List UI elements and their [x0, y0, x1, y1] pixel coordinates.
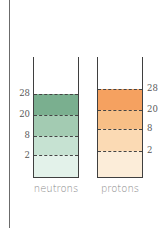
- frame-divider-line: [9, 0, 10, 228]
- neutron-band-8-2: [34, 136, 78, 155]
- proton-level-8: 8: [147, 124, 152, 133]
- neutron-shell-line-8: [34, 136, 78, 137]
- neutron-level-28: 28: [19, 89, 30, 98]
- neutron-level-8: 8: [25, 131, 30, 140]
- proton-shell-line-20: [98, 110, 142, 111]
- proton-band-20-8: [98, 110, 142, 129]
- neutron-band-20-8: [34, 115, 78, 136]
- proton-shell-line-2: [98, 151, 142, 152]
- proton-level-28: 28: [147, 84, 158, 93]
- proton-level-20: 20: [147, 105, 158, 114]
- neutron-level-20: 20: [19, 110, 30, 119]
- neutron-band-2-0: [34, 155, 78, 178]
- protons-label: protons: [90, 183, 150, 194]
- proton-shell-line-8: [98, 129, 142, 130]
- proton-band-2-0: [98, 151, 142, 178]
- proton-band-28-20: [98, 89, 142, 110]
- proton-shell-line-28: [98, 89, 142, 90]
- proton-level-2: 2: [147, 146, 152, 155]
- neutron-shell-line-20: [34, 115, 78, 116]
- neutron-tube: [33, 57, 79, 178]
- neutrons-label: neutrons: [26, 183, 86, 194]
- proton-band-8-2: [98, 129, 142, 151]
- proton-tube: [97, 57, 143, 178]
- neutron-shell-line-2: [34, 155, 78, 156]
- neutron-level-2: 2: [25, 151, 30, 160]
- neutron-band-28-20: [34, 94, 78, 115]
- neutron-shell-line-28: [34, 94, 78, 95]
